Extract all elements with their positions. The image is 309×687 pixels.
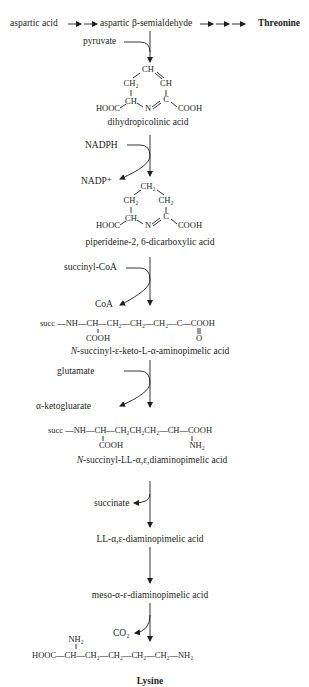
pathway-arrows xyxy=(0,0,309,687)
above-group: NH₂ xyxy=(68,634,83,645)
coa-label: CoA xyxy=(95,299,113,310)
glutamate-label: glutamate xyxy=(57,366,94,377)
below-right: O xyxy=(196,333,202,344)
ring-right: CH₂ xyxy=(159,195,174,206)
left-group: HOOC xyxy=(96,103,120,114)
right-group: COOH xyxy=(178,220,202,231)
succinyl-diaminopimelic-label: N-succinyl-LL-α,ε,diaminopimelic acid xyxy=(77,455,228,466)
label-rest: -succinyl-ε-keto-L-α-aminopimelic acid xyxy=(77,346,229,356)
right-group: COOH xyxy=(178,103,202,114)
succinyl-coa-label: succinyl-CoA xyxy=(64,262,117,273)
below-left: COOH xyxy=(99,440,123,451)
ll-diaminopimelic-label: LL-α,ε-diaminopimelic acid xyxy=(96,534,203,545)
ring-c: C xyxy=(163,94,169,105)
alpha-ketoglutarate-label: α-ketogluarate xyxy=(36,401,91,412)
piperideine-label: piperideine-2, 6-dicarboxylic acid xyxy=(86,237,215,248)
main-chain: HOOC—CH—CH₂—CH₂—CH₂—CH₂—NH₂ xyxy=(32,650,193,661)
ring-n: N xyxy=(145,220,151,231)
keto-aminopimelic-label: N-succinyl-ε-keto-L-α-aminopimelic acid xyxy=(71,346,230,357)
threonine-label: Threonine xyxy=(258,18,300,29)
ring-ch: CH xyxy=(125,213,137,224)
pyruvate-label: pyruvate xyxy=(83,36,116,47)
succinate-label: succinate xyxy=(94,498,129,509)
nadp-label: NADP⁺ xyxy=(81,176,112,187)
main-chain: succ —NH—CH—CH₂CH₂CH₂—CH—COOH xyxy=(48,425,212,436)
ring-left: CH₂ xyxy=(124,195,139,206)
ring-top: CH xyxy=(142,64,154,75)
meso-diaminopimelic-label: meso-α-ε-diaminopimelic acid xyxy=(92,590,208,601)
ring-right: CH xyxy=(160,78,172,89)
aspartic-semialdehyde-label: aspartic β-semialdehyde xyxy=(100,18,192,29)
aspartic-acid-label: aspartic acid xyxy=(10,18,58,29)
lysine-label: Lysine xyxy=(137,676,163,687)
main-chain: succ —NH—CH—CH₂—CH₂—CH₂—C—COOH xyxy=(40,318,215,329)
co2-label: CO₂ xyxy=(113,628,130,639)
left-group: HOOC xyxy=(96,220,120,231)
label-rest: -succinyl-LL-α,ε,diaminopimelic acid xyxy=(83,455,227,465)
nadph-label: NADPH xyxy=(85,140,118,151)
below-right: NH₂ xyxy=(189,440,204,451)
ring-n: N xyxy=(145,103,151,114)
below-left: COOH xyxy=(86,333,110,344)
dihydropicolinic-acid-label: dihydropicolinic acid xyxy=(108,117,189,128)
ring-ch: CH xyxy=(125,96,137,107)
ring-left: CH₂ xyxy=(124,78,139,89)
ring-c: C xyxy=(163,211,169,222)
ring-top: CH₂ xyxy=(141,181,156,192)
